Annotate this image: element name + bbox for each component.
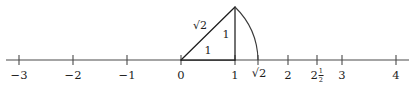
horizontal-leg-label: 1 bbox=[205, 45, 212, 56]
compass-arc bbox=[235, 7, 258, 60]
tick-label-minus-1: −1 bbox=[119, 70, 136, 82]
tick-label-minus-2: −2 bbox=[65, 70, 82, 82]
tick-label-one: 1 bbox=[231, 70, 238, 82]
tick-label-two: 2 bbox=[284, 70, 291, 82]
tick-label-two-and-half: 2 1 2 bbox=[311, 68, 324, 83]
mixed-whole-part: 2 bbox=[311, 70, 318, 82]
tick-label-four: 4 bbox=[392, 70, 399, 82]
fraction: 1 2 bbox=[318, 68, 323, 83]
mixed-number: 2 1 2 bbox=[311, 68, 324, 83]
fraction-denominator: 2 bbox=[318, 76, 323, 83]
tick-label-three: 3 bbox=[338, 70, 345, 82]
tick-label-minus-3: −3 bbox=[11, 70, 28, 82]
fraction-numerator: 1 bbox=[318, 68, 323, 75]
tick-label-sqrt2: √2 bbox=[252, 68, 267, 80]
tick-label-zero: 0 bbox=[177, 70, 184, 82]
sqrt2-glyph: √2 bbox=[252, 68, 267, 80]
number-line-figure: −3 −2 −1 0 1 √2 2 2 1 2 3 4 √2 1 1 bbox=[0, 0, 414, 94]
hypotenuse-label: √2 bbox=[193, 20, 207, 31]
vertical-leg-label: 1 bbox=[223, 29, 230, 40]
